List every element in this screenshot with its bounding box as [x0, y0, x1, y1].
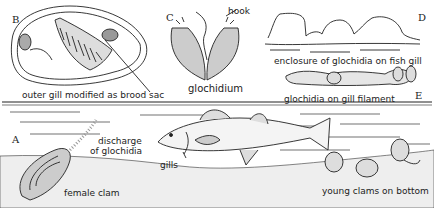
clam-brood-sac-drawing [11, 6, 150, 92]
label-hook: hook [228, 6, 250, 16]
panel-letter-e: E [415, 90, 422, 101]
panel-letter-b: B [12, 14, 19, 25]
illustration-canvas [0, 0, 434, 208]
label-enclosure: enclosure of glochidia on fish gill [274, 56, 422, 66]
fish-gill-enclosure-drawing [265, 13, 420, 52]
label-discharge: discharge [98, 136, 142, 146]
label-gills: gills [160, 160, 178, 170]
panel-letter-d: D [418, 12, 426, 23]
gill-filament-drawing [286, 66, 416, 86]
label-young-clams: young clams on bottom [322, 186, 429, 196]
label-glochidium: glochidium [188, 84, 243, 94]
panel-letter-a: A [12, 134, 19, 145]
label-brood-sac: outer gill modified as brood sac [22, 90, 164, 100]
label-of-glochidia: of glochidia [90, 146, 142, 156]
glochidium-drawing [171, 10, 239, 80]
fish-drawing [158, 110, 330, 165]
label-female-clam: female clam [64, 188, 120, 198]
label-gill-filament: glochidia on gill filament [284, 94, 395, 104]
panel-letter-c: C [166, 12, 174, 23]
